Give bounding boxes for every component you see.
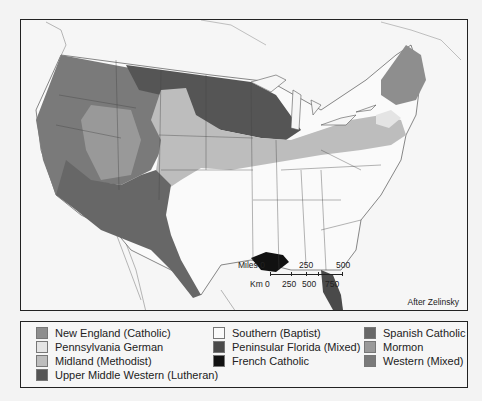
- scale-km-label: Km 0: [250, 279, 270, 289]
- legend-item: Peninsular Florida (Mixed): [213, 341, 360, 353]
- legend: New England (Catholic) Pennsylvania Germ…: [20, 321, 468, 388]
- scale-miles-label: Miles 0: [238, 260, 265, 270]
- legend-item: New England (Catholic): [36, 327, 171, 339]
- scale-tick: [318, 272, 319, 276]
- swatch-icon: [36, 341, 48, 353]
- legend-item: French Catholic: [213, 355, 309, 367]
- legend-label: New England (Catholic): [55, 327, 171, 339]
- scale-tick: [342, 272, 343, 276]
- legend-label: Pennsylvania German: [55, 341, 163, 353]
- legend-item: Upper Middle Western (Lutheran): [36, 369, 218, 381]
- legend-label: Mormon: [383, 341, 423, 353]
- legend-label: Peninsular Florida (Mixed): [232, 341, 360, 353]
- scale-miles-tick: 500: [336, 260, 350, 270]
- legend-label: Upper Middle Western (Lutheran): [55, 369, 218, 381]
- legend-label: Midland (Methodist): [55, 355, 152, 367]
- scale-km-tick: 250: [282, 279, 296, 289]
- map-credit: After Zelinsky: [408, 297, 460, 307]
- legend-item: Pennsylvania German: [36, 341, 163, 353]
- swatch-icon: [364, 327, 376, 339]
- legend-item: Western (Mixed): [364, 355, 463, 367]
- legend-item: Spanish Catholic: [364, 327, 466, 339]
- scale-bar: Miles 0 250 500 Km 0 250 500 750: [236, 260, 371, 300]
- scale-tick: [270, 272, 271, 276]
- scale-km-tick: 500: [302, 279, 316, 289]
- map-frame: Miles 0 250 500 Km 0 250 500 750 After Z…: [20, 19, 468, 311]
- scale-tick: [291, 272, 292, 276]
- legend-label: Southern (Baptist): [232, 327, 321, 339]
- legend-label: French Catholic: [232, 355, 309, 367]
- legend-item: Midland (Methodist): [36, 355, 152, 367]
- scale-miles-tick: 250: [299, 260, 313, 270]
- legend-label: Western (Mixed): [383, 355, 463, 367]
- swatch-icon: [213, 355, 225, 367]
- swatch-icon: [364, 341, 376, 353]
- scale-tick: [306, 272, 307, 276]
- swatch-icon: [36, 369, 48, 381]
- legend-item: Mormon: [364, 341, 423, 353]
- swatch-icon: [213, 341, 225, 353]
- scale-km-tick: 750: [325, 279, 339, 289]
- swatch-icon: [36, 327, 48, 339]
- swatch-icon: [213, 327, 225, 339]
- swatch-icon: [36, 355, 48, 367]
- legend-item: Southern (Baptist): [213, 327, 321, 339]
- legend-label: Spanish Catholic: [383, 327, 466, 339]
- swatch-icon: [364, 355, 376, 367]
